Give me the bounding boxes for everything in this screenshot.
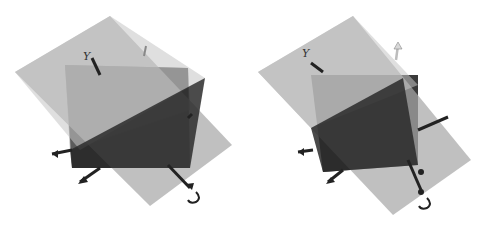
arrowhead-x bbox=[298, 148, 304, 156]
axis-node bbox=[418, 169, 424, 175]
left-panel: Y bbox=[0, 0, 243, 230]
left-diagram: Y bbox=[0, 0, 243, 230]
axis-node-end bbox=[418, 189, 424, 195]
right-diagram: Y bbox=[243, 0, 486, 230]
arrowhead-x bbox=[52, 150, 58, 158]
up-vector-arrowhead bbox=[394, 42, 402, 49]
right-panel: Y bbox=[243, 0, 486, 230]
rotation-icon bbox=[419, 198, 430, 209]
rotation-icon bbox=[188, 192, 199, 203]
